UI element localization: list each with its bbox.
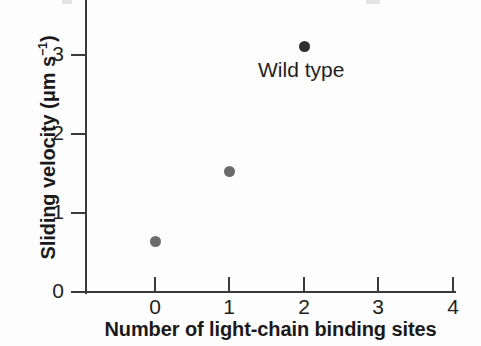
y-tick-0 xyxy=(71,291,86,293)
y-tick-1 xyxy=(71,212,86,214)
y-axis-title: Sliding velocity (μm s−1) xyxy=(37,0,60,303)
x-tick-4 xyxy=(452,277,454,292)
plot-area: 0 1 2 3 0 1 2 3 4 Wild type Sliding velo… xyxy=(0,0,481,346)
x-tick-label-2: 2 xyxy=(284,296,324,317)
wild-type-annotation: Wild type xyxy=(258,58,344,82)
y-axis-line xyxy=(85,0,87,294)
y-tick-2 xyxy=(71,133,86,135)
x-tick-label-3: 3 xyxy=(358,296,398,317)
x-tick-label-4: 4 xyxy=(433,296,473,317)
data-point-0 xyxy=(150,236,161,247)
y-axis-title-suffix: ) xyxy=(37,36,59,43)
x-axis-line xyxy=(85,291,456,293)
chart-figure: 0 1 2 3 0 1 2 3 4 Wild type Sliding velo… xyxy=(0,0,481,346)
x-tick-1 xyxy=(228,277,230,292)
y-axis-title-text: Sliding velocity (μm s xyxy=(37,56,59,259)
x-tick-0 xyxy=(154,277,156,292)
x-tick-label-1: 1 xyxy=(209,296,249,317)
data-point-wild-type xyxy=(299,41,310,52)
x-tick-label-0: 0 xyxy=(135,296,175,317)
x-axis-title: Number of light-chain binding sites xyxy=(85,318,456,341)
data-point-1 xyxy=(224,166,235,177)
x-tick-3 xyxy=(377,277,379,292)
x-tick-2 xyxy=(303,277,305,292)
y-axis-title-exponent: −1 xyxy=(36,42,50,56)
y-tick-3 xyxy=(71,54,86,56)
